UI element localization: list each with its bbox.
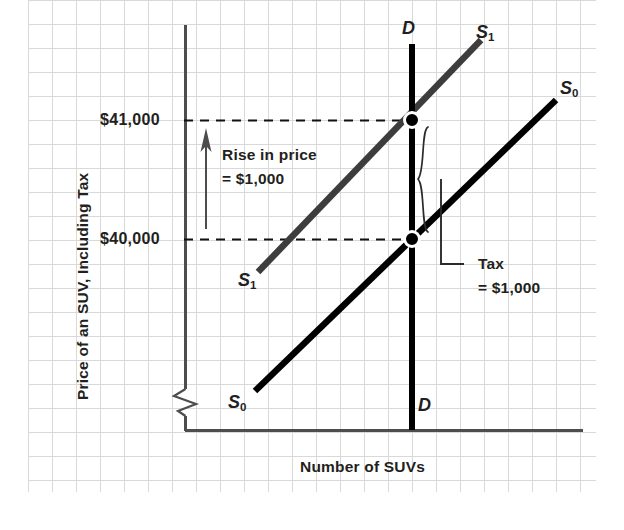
supply0-label-top-text: S [560, 78, 572, 98]
tax-label-line2: = $1,000 [478, 279, 540, 298]
demand-label-top: D [402, 18, 415, 40]
supply0-label-top: S0 [560, 78, 578, 100]
demand-label-bottom: D [418, 395, 431, 417]
y-axis-title: Price of an SUV, Including Tax [74, 173, 93, 400]
supply1-label-top-text: S [476, 22, 488, 42]
supply1-label-bottom: S1 [238, 270, 256, 292]
y-axis-break-zigzag [174, 389, 196, 416]
supply0-label-bottom: S0 [228, 392, 246, 414]
y-tick-label-40000: $40,000 [100, 229, 160, 249]
supply1-label-top-sub: 1 [488, 31, 494, 43]
supply0-label-bottom-text: S [228, 392, 240, 412]
supply-curve-s0 [255, 100, 556, 391]
supply0-label-top-sub: 0 [572, 87, 578, 99]
equilibrium-point-after-tax [405, 113, 420, 128]
supply1-label-bottom-text: S [238, 270, 250, 290]
supply1-label-top: S1 [476, 22, 494, 44]
x-axis-title: Number of SUVs [300, 458, 425, 477]
rise-in-price-label-line1: Rise in price [222, 146, 317, 165]
demand-label-bottom-text: D [418, 395, 431, 415]
rise-in-price-label-line2: = $1,000 [222, 170, 284, 189]
figure-canvas: Price of an SUV, Including Tax $41,000 $… [0, 0, 624, 530]
y-tick-label-41000: $41,000 [100, 110, 160, 130]
tax-label-line1: Tax [478, 255, 504, 274]
demand-label-top-text: D [402, 18, 415, 38]
equilibrium-point-before-tax [405, 232, 420, 247]
tax-brace [418, 127, 428, 232]
chart-graphics [0, 0, 624, 530]
supply0-label-bottom-sub: 0 [240, 401, 246, 413]
supply1-label-bottom-sub: 1 [250, 279, 256, 291]
